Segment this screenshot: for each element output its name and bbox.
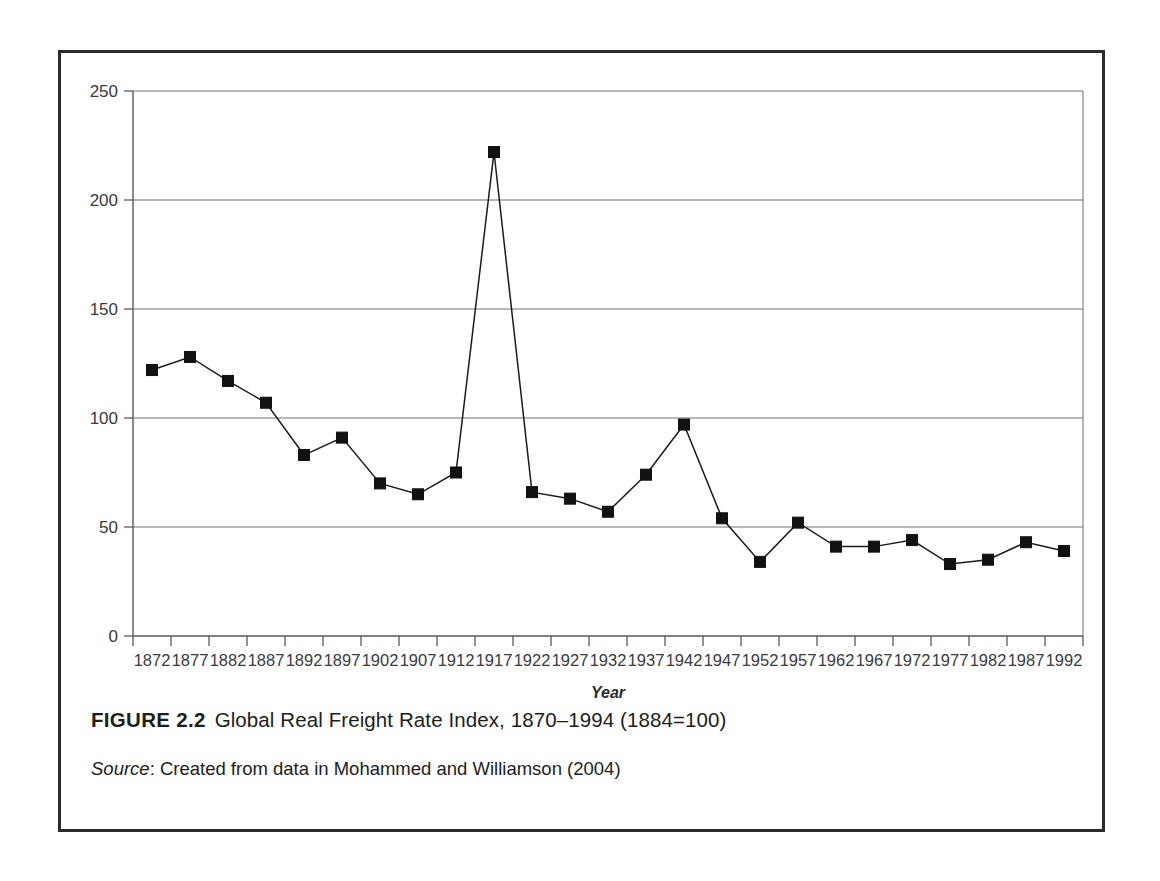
data-point-marker bbox=[147, 365, 158, 376]
data-point-marker bbox=[793, 517, 804, 528]
x-axis-tick-label: 1877 bbox=[172, 651, 209, 669]
series-markers bbox=[147, 147, 1070, 570]
data-point-marker bbox=[565, 493, 576, 504]
caption-block: FIGURE 2.2Global Real Freight Rate Index… bbox=[91, 708, 1078, 780]
data-point-marker bbox=[451, 467, 462, 478]
figure-caption: FIGURE 2.2Global Real Freight Rate Index… bbox=[91, 708, 1078, 732]
data-point-marker bbox=[831, 541, 842, 552]
x-axis-tick-label: 1927 bbox=[552, 651, 589, 669]
y-axis-tick-label: 100 bbox=[90, 409, 118, 428]
x-axis-tick-label: 1922 bbox=[514, 651, 551, 669]
y-axis-tick-label: 50 bbox=[99, 518, 118, 537]
axes bbox=[133, 91, 1083, 636]
data-point-marker bbox=[945, 559, 956, 570]
x-axis-tick-label: 1892 bbox=[286, 651, 323, 669]
data-point-marker bbox=[261, 397, 272, 408]
data-point-marker bbox=[489, 147, 500, 158]
data-point-marker bbox=[907, 535, 918, 546]
data-point-marker bbox=[869, 541, 880, 552]
line-chart: 0501001502002501872187718821887189218971… bbox=[61, 53, 1108, 698]
x-axis-tick-label: 1992 bbox=[1046, 651, 1083, 669]
x-axis-tick-label: 1917 bbox=[476, 651, 513, 669]
x-axis-tick-label: 1897 bbox=[324, 651, 361, 669]
source-separator: : bbox=[150, 758, 160, 779]
chart-plot-region: 0501001502002501872187718821887189218971… bbox=[61, 53, 1108, 698]
x-axis-tick-label: 1907 bbox=[400, 651, 437, 669]
y-axis-tick-label: 200 bbox=[90, 191, 118, 210]
y-axis-tick-label: 150 bbox=[90, 300, 118, 319]
x-axis-tick-label: 1912 bbox=[438, 651, 475, 669]
source-label: Source bbox=[91, 758, 150, 779]
x-axis-tick-label: 1932 bbox=[590, 651, 627, 669]
x-axis-tick-label: 1982 bbox=[970, 651, 1007, 669]
x-axis-ticks: 1872187718821887189218971902190719121917… bbox=[133, 636, 1083, 669]
x-axis-tick-label: 1987 bbox=[1008, 651, 1045, 669]
data-point-marker bbox=[299, 450, 310, 461]
x-axis-tick-label: 1952 bbox=[742, 651, 779, 669]
data-point-marker bbox=[717, 513, 728, 524]
data-point-marker bbox=[1059, 545, 1070, 556]
data-point-marker bbox=[223, 375, 234, 386]
x-axis-tick-label: 1962 bbox=[818, 651, 855, 669]
x-axis-title: Year bbox=[591, 684, 626, 698]
data-point-marker bbox=[641, 469, 652, 480]
data-point-marker bbox=[1021, 537, 1032, 548]
data-point-marker bbox=[375, 478, 386, 489]
data-point-marker bbox=[413, 489, 424, 500]
x-axis-tick-label: 1947 bbox=[704, 651, 741, 669]
x-axis-tick-label: 1972 bbox=[894, 651, 931, 669]
x-axis-tick-label: 1977 bbox=[932, 651, 969, 669]
x-axis-tick-label: 1887 bbox=[248, 651, 285, 669]
x-axis-tick-label: 1937 bbox=[628, 651, 665, 669]
figure-frame: 0501001502002501872187718821887189218971… bbox=[58, 50, 1105, 832]
x-axis-tick-label: 1872 bbox=[134, 651, 171, 669]
data-point-marker bbox=[337, 432, 348, 443]
data-point-marker bbox=[185, 351, 196, 362]
figure-title: Global Real Freight Rate Index, 1870–199… bbox=[215, 708, 727, 731]
y-axis-tick-label: 0 bbox=[109, 627, 118, 646]
y-axis-tick-label: 250 bbox=[90, 82, 118, 101]
data-point-marker bbox=[527, 487, 538, 498]
figure-source: Source: Created from data in Mohammed an… bbox=[91, 758, 1078, 780]
series-line-freight-rate-index bbox=[152, 152, 1064, 564]
data-point-marker bbox=[983, 554, 994, 565]
x-axis-tick-label: 1902 bbox=[362, 651, 399, 669]
data-point-marker bbox=[603, 506, 614, 517]
x-axis-tick-label: 1957 bbox=[780, 651, 817, 669]
gridlines: 050100150200250 bbox=[90, 82, 1083, 646]
x-axis-tick-label: 1942 bbox=[666, 651, 703, 669]
source-text: Created from data in Mohammed and Willia… bbox=[160, 758, 621, 779]
figure-number: FIGURE 2.2 bbox=[91, 708, 206, 731]
data-point-marker bbox=[755, 556, 766, 567]
x-axis-tick-label: 1882 bbox=[210, 651, 247, 669]
data-point-marker bbox=[679, 419, 690, 430]
x-axis-tick-label: 1967 bbox=[856, 651, 893, 669]
